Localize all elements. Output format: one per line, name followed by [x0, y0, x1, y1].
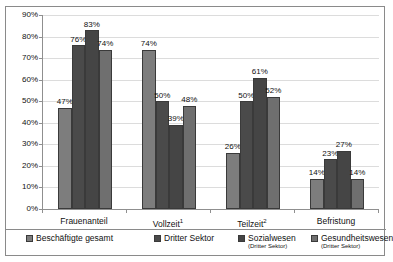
legend-label: Gesundheitswesen [321, 234, 393, 243]
bar [142, 50, 156, 210]
bar-value-label: 50% [151, 92, 175, 100]
bar [310, 179, 324, 209]
legend-item[interactable]: Sozialwesen(Dritter Sektor) [238, 234, 296, 250]
bar [324, 159, 338, 209]
x-axis-tick-mark [210, 209, 211, 213]
bar-group: 47%76%83%74% [43, 15, 127, 209]
bar-value-label: 74% [137, 40, 161, 48]
bar [337, 151, 351, 209]
x-axis-category-label: Frauenanteil [42, 216, 126, 226]
x-axis-tick-mark [126, 209, 127, 213]
legend-color-swatch [26, 235, 33, 242]
y-axis-tick-label: 90% [22, 11, 38, 19]
x-axis-tick-mark [42, 209, 43, 213]
x-axis-tick-mark [294, 209, 295, 213]
bar-value-label: 27% [332, 141, 356, 149]
bar [99, 50, 113, 210]
y-axis-tick-label: 30% [22, 140, 38, 148]
bar [72, 45, 86, 209]
legend-text-block: Beschäftigte gesamt [36, 234, 113, 243]
y-axis-tick-label: 0% [26, 205, 38, 213]
bar-value-label: 61% [248, 68, 272, 76]
bar-group: 14%23%27%14% [295, 15, 379, 209]
legend-text-block: Dritter Sektor [164, 234, 214, 243]
legend-item[interactable]: Beschäftigte gesamt [26, 234, 113, 243]
footnote-marker: 1 [180, 218, 183, 224]
bar-group: 26%50%61%52% [211, 15, 295, 209]
bar [240, 101, 254, 209]
legend-label: Sozialwesen [248, 234, 296, 243]
y-axis-tick-label: 60% [22, 76, 38, 84]
legend-label: Dritter Sektor [164, 234, 214, 243]
bar [267, 97, 281, 209]
bar-value-label: 83% [80, 21, 104, 29]
bar [226, 153, 240, 209]
legend-item[interactable]: Dritter Sektor [154, 234, 214, 243]
bar-value-label: 14% [346, 169, 370, 177]
chart-legend: Beschäftigte gesamtDritter SektorSozialw… [6, 229, 386, 256]
footnote-marker: 2 [263, 218, 266, 224]
plot-grid: 47%76%83%74%74%50%39%48%26%50%61%52%14%2… [42, 15, 378, 209]
y-axis-tick-label: 40% [22, 119, 38, 127]
y-axis-tick-label: 20% [22, 162, 38, 170]
bar-value-label: 48% [178, 96, 202, 104]
bar [169, 125, 183, 209]
legend-label: Beschäftigte gesamt [36, 234, 113, 243]
y-axis-tick-label: 70% [22, 54, 38, 62]
y-axis-tick-label: 80% [22, 33, 38, 41]
y-axis-tick-label: 50% [22, 97, 38, 105]
legend-item[interactable]: Gesundheitswesen(Dritter Sektor) [311, 234, 393, 250]
plot-area: 90%80%70%60%50%40%30%20%10%0% 47%76%83%7… [6, 7, 386, 219]
bar [351, 179, 365, 209]
bar [253, 78, 267, 209]
legend-color-swatch [311, 235, 318, 242]
legend-color-swatch [154, 235, 161, 242]
y-axis: 90%80%70%60%50%40%30%20%10%0% [6, 7, 40, 219]
chart-container: 90%80%70%60%50%40%30%20%10%0% 47%76%83%7… [5, 6, 385, 256]
x-axis-category-label: Vollzeit1 [126, 216, 210, 229]
x-axis-category-label: Befristung [294, 216, 378, 226]
legend-text-block: Gesundheitswesen(Dritter Sektor) [321, 234, 393, 250]
x-axis-category-label: Teilzeit2 [210, 216, 294, 229]
bar-group: 74%50%39%48% [127, 15, 211, 209]
bar-value-label: 74% [94, 40, 118, 48]
legend-sublabel: (Dritter Sektor) [248, 243, 296, 250]
bar-value-label: 52% [262, 87, 286, 95]
bar-groups: 47%76%83%74%74%50%39%48%26%50%61%52%14%2… [43, 15, 379, 209]
y-axis-tick-label: 10% [22, 183, 38, 191]
x-axis-tick-mark [378, 209, 379, 213]
bar [58, 108, 72, 209]
legend-color-swatch [238, 235, 245, 242]
legend-text-block: Sozialwesen(Dritter Sektor) [248, 234, 296, 250]
legend-sublabel: (Dritter Sektor) [321, 243, 393, 250]
bar [183, 106, 197, 209]
bar [85, 30, 99, 209]
